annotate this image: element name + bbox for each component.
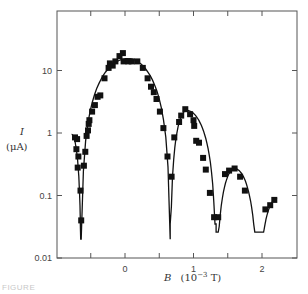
chart-plot: 012 0.010.1110 B (10−3 T) I (μA) [0, 0, 308, 294]
data-point-marker [154, 96, 160, 102]
data-point-marker [134, 58, 140, 64]
data-point-marker [187, 111, 193, 117]
data-point-marker [178, 113, 184, 119]
data-point-marker [97, 92, 103, 98]
data-point-marker [207, 190, 213, 196]
data-point-marker [75, 154, 81, 160]
data-point-marker [215, 214, 221, 220]
data-point-marker [157, 109, 163, 115]
x-tick-label: 0 [122, 264, 127, 274]
y-tick-label: 10 [42, 66, 52, 76]
data-point-marker [191, 117, 197, 123]
data-point-marker [75, 165, 81, 171]
data-markers [72, 50, 277, 223]
data-point-marker [203, 167, 209, 173]
data-point-marker [196, 140, 202, 146]
data-point-marker [242, 188, 248, 194]
data-point-marker [73, 146, 79, 152]
data-point-marker [237, 174, 243, 180]
data-point-marker [232, 166, 238, 172]
x-axis-label: B (10−3 T) [163, 271, 221, 283]
data-point-marker [145, 75, 151, 81]
data-point-marker [165, 154, 171, 160]
y-axis-ticks: 0.010.1110 [34, 66, 297, 264]
data-point-marker [151, 89, 157, 95]
data-point-marker [92, 102, 98, 108]
data-point-marker [148, 84, 154, 90]
data-point-marker [176, 119, 182, 125]
data-point-marker [271, 197, 277, 203]
data-point-marker [81, 163, 87, 169]
data-point-marker [78, 188, 84, 194]
y-tick-label: 1 [47, 128, 52, 138]
data-point-marker [226, 168, 232, 174]
data-point-marker [267, 202, 273, 208]
data-point-marker [82, 149, 88, 155]
data-point-marker [78, 217, 84, 223]
data-point-marker [84, 133, 90, 139]
data-point-marker [86, 117, 92, 123]
data-point-marker [102, 75, 108, 81]
data-point-marker [171, 134, 177, 140]
data-point-marker [160, 125, 166, 131]
x-axis-ticks: 012 [91, 11, 265, 274]
data-point-marker [200, 155, 206, 161]
data-point-marker [85, 127, 91, 133]
data-point-marker [89, 109, 95, 115]
x-tick-label: 2 [259, 264, 264, 274]
data-point-marker [74, 136, 80, 142]
data-point-marker [140, 65, 146, 71]
y-tick-label: 0.1 [39, 191, 52, 201]
y-axis-label-unit: (μA) [6, 141, 28, 152]
theory-curve-line [72, 59, 278, 240]
figure-caption-fragment: FIGURE [2, 283, 35, 292]
data-point-marker [120, 50, 126, 56]
data-point-marker [112, 58, 118, 64]
data-point-marker [191, 123, 197, 129]
data-point-marker [129, 58, 135, 64]
y-axis-label-var: I [19, 126, 25, 137]
data-point-marker [169, 174, 175, 180]
y-tick-label: 0.01 [34, 253, 52, 263]
